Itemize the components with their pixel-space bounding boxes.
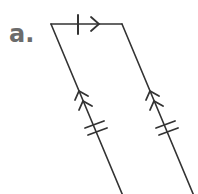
left-double-arrow-icon (75, 91, 92, 110)
right-side (122, 24, 194, 194)
right-double-arrow-icon (146, 91, 163, 110)
left-double-tick-mark (85, 121, 107, 135)
right-double-tick-mark (156, 121, 178, 135)
left-side (51, 24, 123, 194)
parallelogram-diagram (0, 0, 198, 194)
